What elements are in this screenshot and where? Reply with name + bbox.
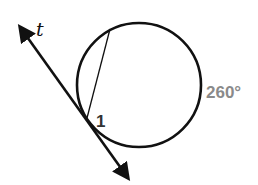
diagram-canvas: t 1 260° [0,0,258,185]
arc-measure-label: 260° [206,83,241,102]
chord [87,29,110,118]
tangent-label: t [36,18,44,40]
tangent-line-t [20,27,128,178]
angle-label: 1 [96,112,105,131]
